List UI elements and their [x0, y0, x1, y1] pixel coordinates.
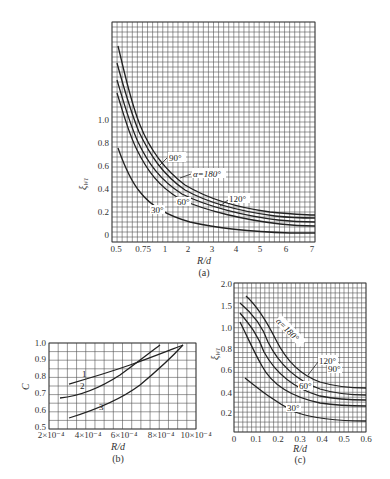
chart-a-ann-90: 90° [169, 153, 182, 163]
chart-a-ann-180: α=180° [193, 169, 221, 179]
tick-label: 0.8 [98, 138, 110, 148]
tick-label: 0.5 [338, 434, 350, 444]
tick-label: 1.0 [35, 338, 47, 348]
chart-c-ylabel: ξW1 [209, 348, 221, 360]
chart-b: 1 2 3 0.50.60.70.80.91.0 2×10⁻⁴4×10⁻⁴6×1… [20, 338, 212, 465]
tick-label: 10×10⁻⁴ [180, 430, 211, 440]
tick-label: 0 [105, 230, 110, 240]
tick-label: 0.8 [35, 371, 47, 381]
tick-label: 0.9 [35, 354, 47, 364]
tick-label: 4×10⁻⁴ [75, 430, 102, 440]
chart-b-grid [49, 343, 196, 429]
chart-a-curve-60 [117, 93, 315, 226]
tick-label: 0.7 [35, 388, 47, 398]
tick-label: 3 [210, 244, 215, 254]
chart-b-y-ticks: 0.50.60.70.80.91.0 [35, 338, 47, 432]
chart-c-curve-60 [240, 322, 366, 406]
tick-label: 0.2 [221, 408, 232, 418]
tick-label: 8×10⁻⁴ [148, 430, 175, 440]
tick-label: 1 [163, 244, 168, 254]
chart-b-ann-1: 1 [82, 369, 87, 379]
chart-c: α=180° 120° 90° 60° 30° 0.20.40.60.81.01… [209, 279, 372, 466]
chart-a-caption: (a) [198, 267, 209, 279]
chart-c-curve-180 [246, 296, 366, 388]
chart-b-curve-3 [69, 345, 183, 418]
tick-label: 0.1 [250, 434, 261, 444]
chart-c-y-ticks: 0.20.40.60.81.01.52.0 [221, 279, 233, 418]
tick-label: 0.5 [110, 244, 122, 254]
tick-label: 0.6 [221, 365, 233, 375]
tick-label: 1.0 [98, 115, 110, 125]
tick-label: 0.75 [135, 244, 151, 254]
tick-label: 6 [284, 244, 289, 254]
figure-canvas: 90° α=180° 120° 60° 30° 00.20.40.60.81.0… [0, 0, 390, 479]
chart-a-xlabel: R/d [196, 255, 212, 266]
tick-label: 0.4 [221, 388, 233, 398]
tick-label: 0.6 [360, 434, 372, 444]
chart-a: 90° α=180° 120° 60° 30° 00.20.40.60.81.0… [77, 22, 315, 279]
chart-a-leader-180 [180, 174, 191, 178]
tick-label: 0.4 [316, 434, 328, 444]
tick-label: 0.2 [98, 207, 109, 217]
chart-b-ann-3: 3 [99, 402, 104, 412]
tick-label: 0 [232, 434, 237, 444]
chart-a-curve-120 [117, 80, 315, 222]
tick-label: 4 [234, 244, 239, 254]
chart-c-ann-60: 60° [299, 381, 312, 391]
chart-a-ann-30: 30° [151, 205, 164, 215]
chart-c-xlabel: R/d [292, 443, 308, 454]
chart-b-x-ticks: 2×10⁻⁴4×10⁻⁴6×10⁻⁴8×10⁻⁴10×10⁻⁴ [38, 430, 212, 440]
chart-a-ann-60: 60° [177, 197, 190, 207]
chart-a-ylabel: ξW1 [77, 178, 89, 190]
chart-a-ann-120: 120° [229, 194, 247, 204]
chart-b-ylabel: C [20, 383, 31, 390]
tick-label: 0.8 [221, 344, 233, 354]
tick-label: 0.6 [35, 405, 47, 415]
chart-c-ann-90: 90° [328, 364, 341, 374]
chart-b-ann-2: 2 [80, 381, 85, 391]
chart-a-y-ticks: 00.20.40.60.81.0 [98, 115, 110, 240]
chart-c-caption: (c) [294, 454, 305, 466]
chart-b-caption: (b) [112, 453, 124, 465]
tick-label: 6×10⁻⁴ [111, 430, 138, 440]
chart-c-ann-30: 30° [287, 403, 300, 413]
tick-label: 2.0 [221, 279, 233, 289]
tick-label: 1.5 [221, 301, 233, 311]
tick-label: 0.6 [98, 161, 110, 171]
tick-label: 5 [258, 244, 263, 254]
tick-label: 2×10⁻⁴ [38, 430, 65, 440]
chart-a-x-ticks: 0.50.751234567 [110, 244, 314, 254]
tick-label: 0.2 [272, 434, 283, 444]
chart-b-xlabel: R/d [110, 441, 126, 452]
tick-label: 0.4 [98, 184, 110, 194]
tick-label: 1.0 [221, 323, 233, 333]
tick-label: 7 [310, 244, 315, 254]
tick-label: 2 [186, 244, 191, 254]
